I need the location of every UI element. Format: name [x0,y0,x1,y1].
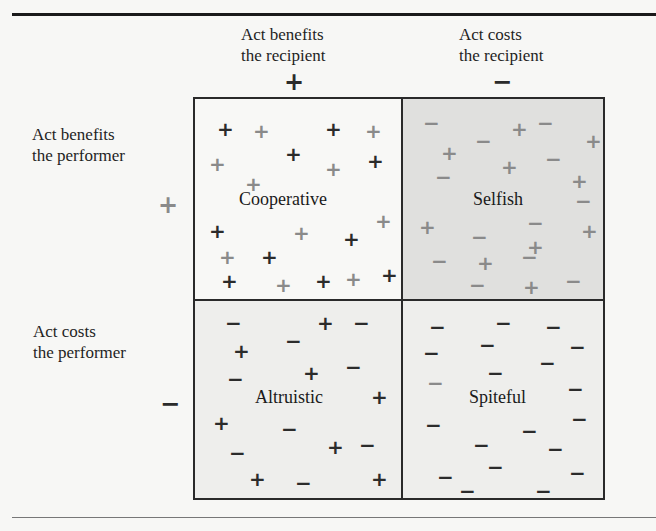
plus-mark: + [325,119,342,139]
plus-mark: + [343,229,360,249]
minus-mark: − [359,435,376,455]
minus-mark: − [569,463,586,483]
row-header-benefits-performer: Act benefits the performer [32,124,125,166]
minus-mark: − [425,415,442,435]
minus-mark: − [487,363,504,383]
minus-mark: − [527,213,544,233]
minus-mark: − [429,317,446,337]
minus-mark: − [473,435,490,455]
minus-mark: − [471,227,488,247]
plus-mark: + [381,265,398,285]
plus-mark: + [213,413,230,433]
plus-mark: + [293,223,310,243]
minus-sign-performer: − [160,392,180,416]
minus-mark: − [487,457,504,477]
plus-mark: + [315,271,332,291]
minus-mark: − [479,335,496,355]
plus-mark: + [249,469,266,489]
minus-mark: − [281,419,298,439]
minus-mark: − [435,167,452,187]
interaction-matrix: Cooperative ++++++++++++++++++++ Selfish… [193,97,605,500]
minus-mark: − [225,313,242,333]
column-header-costs-recipient: Act costs the recipient [459,24,544,66]
minus-mark: − [495,313,512,333]
minus-mark: − [437,467,454,487]
plus-mark: + [511,119,528,139]
minus-mark: − [535,481,552,501]
plus-mark: + [325,159,342,179]
plus-mark: + [477,253,494,273]
minus-mark: − [431,251,448,271]
plus-mark: + [327,437,344,457]
plus-mark: + [221,271,238,291]
plus-mark: + [419,217,436,237]
minus-mark: − [545,317,562,337]
minus-mark: − [539,353,556,373]
minus-mark: − [227,369,244,389]
minus-mark: − [229,443,246,463]
minus-mark: − [537,113,554,133]
quadrant-cooperative: Cooperative ++++++++++++++++++++ [195,99,401,299]
minus-mark: − [459,481,476,501]
quadrant-selfish: Selfish −+−++−−+−+−+−−++−+−−+− [403,99,603,299]
minus-mark: − [475,131,492,151]
minus-mark: − [571,409,588,429]
plus-mark: + [275,275,292,295]
minus-mark: − [569,337,586,357]
minus-mark: − [345,357,362,377]
plus-mark: + [345,269,362,289]
plus-mark: + [317,313,334,333]
plus-mark: + [523,277,540,297]
bottom-rule [12,517,656,518]
plus-mark: + [303,363,320,383]
minus-mark: − [521,421,538,441]
row-header-costs-performer: Act costs the performer [33,321,126,363]
minus-mark: − [565,271,582,291]
minus-mark: − [469,275,486,295]
plus-sign-performer: + [158,193,178,217]
minus-sign-recipient: − [492,70,512,94]
plus-mark: + [209,221,226,241]
plus-mark: + [571,171,588,191]
plus-mark: + [585,131,602,151]
plus-mark: + [501,157,518,177]
quadrant-label-selfish: Selfish [473,189,523,210]
minus-mark: − [547,439,564,459]
plus-mark: + [245,174,262,194]
minus-mark: − [575,191,592,211]
plus-mark: + [219,247,236,267]
horizontal-divider [195,299,603,301]
minus-mark: − [353,313,370,333]
plus-mark: + [285,144,302,164]
minus-mark: − [295,473,312,493]
minus-mark: − [567,379,584,399]
plus-mark: + [375,211,392,231]
plus-mark: + [581,221,598,241]
plus-mark: + [217,119,234,139]
plus-mark: + [371,387,388,407]
plus-mark: + [371,469,388,489]
plus-mark: + [233,341,250,361]
plus-mark: + [253,121,270,141]
minus-mark: − [545,149,562,169]
minus-mark: − [427,373,444,393]
quadrant-altruistic: Altruistic −+−+−−+−++−−+−+−+ [195,301,401,498]
minus-mark: − [285,331,302,351]
plus-mark: + [441,143,458,163]
quadrant-label-altruistic: Altruistic [255,387,323,408]
plus-mark: + [261,247,278,267]
quadrant-spiteful: Spiteful −−−−−−−−−−−−−−−−−−−− [403,301,603,498]
quadrant-label-spiteful: Spiteful [469,387,526,408]
minus-mark: − [423,113,440,133]
top-rule [12,13,656,16]
plus-mark: + [367,151,384,171]
plus-sign-recipient: + [284,70,304,94]
column-header-benefits-recipient: Act benefits the recipient [241,24,326,66]
plus-mark: + [365,121,382,141]
minus-mark: − [521,247,538,267]
minus-mark: − [423,343,440,363]
plus-mark: + [209,154,226,174]
